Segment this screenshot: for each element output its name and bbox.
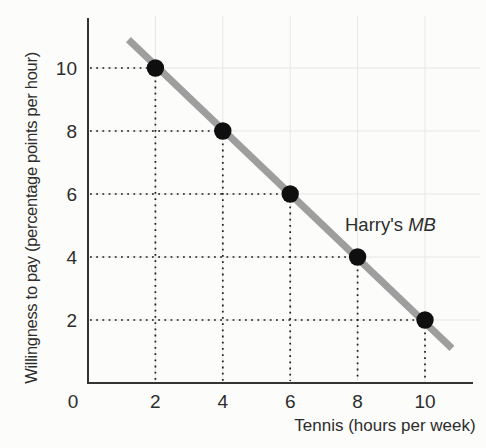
y-axis-title: Willingness to pay (percentage points pe…: [22, 52, 40, 384]
x-tick-label: 8: [352, 391, 363, 412]
y-tick-label: 6: [66, 184, 77, 205]
y-tick-label: 4: [66, 247, 77, 268]
x-tick-label: 4: [218, 391, 229, 412]
data-point: [214, 122, 231, 139]
y-tick-label: 8: [66, 121, 77, 142]
chart: 0246810246810 Tennis (hours per week) Wi…: [0, 0, 486, 448]
origin-tick-label: 0: [68, 391, 79, 412]
mb-curve-label-owner: Harry's: [345, 214, 408, 235]
x-tick-label: 6: [285, 391, 296, 412]
y-tick-label: 2: [66, 310, 77, 331]
data-point: [282, 185, 299, 202]
axes: [88, 18, 473, 383]
x-tick-label: 2: [150, 391, 161, 412]
mb-curve-label-mb: MB: [408, 214, 436, 235]
x-tick-label: 10: [414, 391, 435, 412]
axes-path: [88, 18, 473, 383]
data-point: [349, 248, 366, 265]
mb-curve-label: Harry's MB: [345, 214, 436, 235]
y-tick-label: 10: [56, 58, 77, 79]
data-point: [416, 311, 433, 328]
x-axis-title: Tennis (hours per week): [294, 416, 475, 435]
data-point: [147, 59, 164, 76]
